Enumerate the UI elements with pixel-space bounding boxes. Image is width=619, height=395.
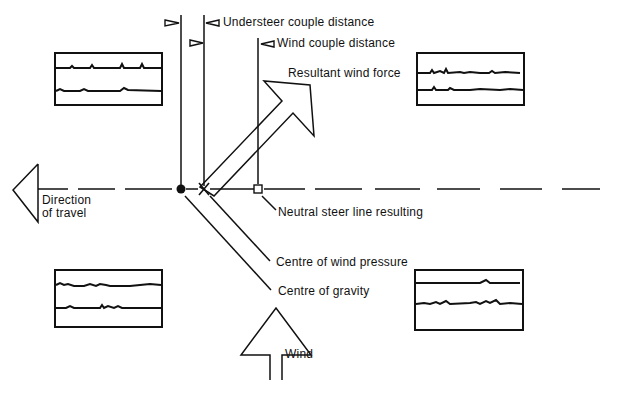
resultant-wind-force-arrow <box>200 81 314 196</box>
dimension-marker-icon <box>165 20 179 26</box>
direction-arrow-icon <box>13 164 38 222</box>
neutral-steer-point-marker <box>254 185 262 193</box>
dimension-marker-icon <box>261 41 274 47</box>
resultant-wind-force-label: Resultant wind force <box>288 67 401 80</box>
centre-of-wind-pressure-leader <box>210 196 270 261</box>
centre-of-gravity-leader <box>185 196 271 290</box>
centre-of-wind-pressure-label: Centre of wind pressure <box>276 256 408 269</box>
direction-of-travel-label-line2: of travel <box>42 207 87 220</box>
wheel-rear-left <box>55 270 162 327</box>
neutral-steer-line-label: Neutral steer line resulting <box>278 206 423 219</box>
centre-of-gravity-marker <box>177 185 186 194</box>
dimension-marker-icon <box>206 20 219 26</box>
wind-label: Wind <box>285 348 313 361</box>
wheel-front-left <box>55 53 162 105</box>
vehicle-wind-diagram <box>0 0 619 395</box>
wheel-front-right <box>417 53 524 105</box>
centre-of-gravity-label: Centre of gravity <box>278 285 369 298</box>
wind-arrow-icon <box>241 308 311 380</box>
wind-couple-distance-label: Wind couple distance <box>277 37 395 50</box>
dimension-marker-icon <box>190 40 203 46</box>
neutral-steer-leader <box>262 196 276 210</box>
wheel-rear-right <box>415 270 523 330</box>
understeer-couple-distance-label: Understeer couple distance <box>223 16 374 29</box>
